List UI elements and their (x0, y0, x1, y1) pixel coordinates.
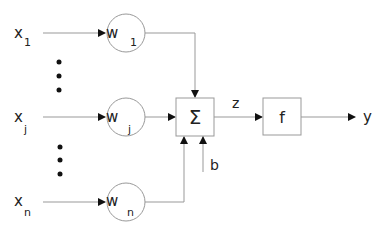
input-xj: x j (14, 108, 27, 136)
summation-node: Σ (176, 98, 214, 136)
activation-node: f (263, 98, 301, 135)
svg-text:n: n (24, 206, 31, 219)
arrow-wn-sum (145, 137, 184, 202)
bias-label: b (210, 157, 219, 173)
svg-text:j: j (127, 123, 131, 136)
svg-text:j: j (23, 123, 27, 136)
svg-text:w: w (106, 24, 118, 42)
ellipsis-dots-upper (57, 60, 62, 93)
input-xn: x n (14, 192, 31, 219)
svg-text:1: 1 (24, 36, 31, 49)
svg-text:f: f (279, 108, 285, 127)
svg-text:x: x (14, 108, 23, 126)
svg-text:1: 1 (130, 36, 137, 49)
svg-text:x: x (14, 192, 23, 210)
arrow-w1-sum (145, 33, 195, 97)
weight-node-wj: w j (106, 98, 145, 136)
svg-text:Σ: Σ (189, 105, 202, 129)
neuron-diagram: x 1 w 1 x j w j x n w n (0, 0, 383, 230)
input-x1: x 1 (14, 24, 31, 49)
svg-text:x: x (14, 24, 23, 42)
svg-text:w: w (106, 192, 118, 210)
output-label: y (363, 108, 372, 126)
weight-node-w1: w 1 (106, 14, 145, 52)
svg-text:n: n (127, 206, 134, 219)
z-label: z (232, 95, 239, 111)
ellipsis-dots-lower (58, 145, 63, 177)
svg-text:w: w (106, 108, 118, 126)
weight-node-wn: w n (106, 183, 145, 221)
